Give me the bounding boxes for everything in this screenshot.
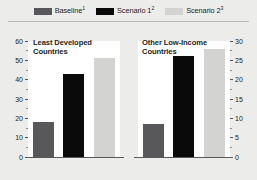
y-tick-label: 10 xyxy=(235,115,243,122)
y-tick-mark xyxy=(230,89,232,90)
y-tick-mark xyxy=(230,157,233,158)
y-tick-label: 30 xyxy=(235,38,243,45)
y-tick-mark xyxy=(230,99,233,100)
legend-item-baseline: Baseline1 xyxy=(34,7,85,14)
bar-ldc-scenario-2 xyxy=(94,58,115,157)
y-tick-mark xyxy=(230,147,232,148)
y-tick-label: 30 xyxy=(15,96,23,103)
chart-legend: Baseline1 Scenario 12 Scenario 23 xyxy=(0,0,257,22)
y-tick-label: 0 xyxy=(235,154,239,161)
y-tick-label: 20 xyxy=(235,76,243,83)
y-tick-label: 60 xyxy=(15,38,23,45)
bar-ldc-baseline xyxy=(33,122,54,157)
legend-divider xyxy=(8,21,249,22)
y-tick-mark xyxy=(230,108,232,109)
y-tick-mark xyxy=(230,118,233,119)
y-tick-label: 15 xyxy=(235,96,243,103)
bar-olic-baseline xyxy=(143,124,164,157)
y-tick-label: 5 xyxy=(235,134,239,141)
panel-other-low-income-countries: Other Low-IncomeCountries 051015202530 xyxy=(130,36,252,164)
bar-olic-scenario-2 xyxy=(204,49,225,157)
y-tick-mark xyxy=(230,137,233,138)
legend-label-baseline: Baseline1 xyxy=(55,7,85,14)
x-axis-line-olic xyxy=(134,157,230,158)
x-axis-line-ldc xyxy=(28,157,124,158)
bar-group-ldc xyxy=(28,41,120,157)
bar-olic-scenario-1 xyxy=(173,56,194,157)
legend-label-scenario-1: Scenario 12 xyxy=(117,7,154,14)
y-tick-label: 40 xyxy=(15,76,23,83)
legend-item-scenario-2: Scenario 23 xyxy=(165,7,223,14)
y-tick-label: 50 xyxy=(15,57,23,64)
legend-swatch-scenario-2 xyxy=(165,8,183,15)
y-tick-mark xyxy=(230,70,232,71)
y-tick-mark xyxy=(230,41,233,42)
legend-item-scenario-1: Scenario 12 xyxy=(96,7,154,14)
bar-group-olic xyxy=(138,41,230,157)
legend-swatch-baseline xyxy=(34,8,52,15)
bar-ldc-scenario-1 xyxy=(63,74,84,157)
y-tick-mark xyxy=(230,50,232,51)
y-tick-label: 20 xyxy=(15,115,23,122)
y-tick-label: 25 xyxy=(235,57,243,64)
legend-swatch-scenario-1 xyxy=(96,8,114,15)
y-tick-mark xyxy=(230,60,233,61)
chart-figure: Baseline1 Scenario 12 Scenario 23 Least … xyxy=(0,0,257,180)
y-tick-mark xyxy=(230,79,233,80)
y-tick-label: 10 xyxy=(15,134,23,141)
panel-least-developed-countries: Least DevelopedCountries 0102030405060 xyxy=(6,36,128,164)
y-tick-label: 0 xyxy=(19,154,23,161)
y-tick-mark xyxy=(230,128,232,129)
y-axis-olic: 051015202530 xyxy=(230,36,254,162)
y-axis-ldc: 0102030405060 xyxy=(6,36,28,162)
legend-label-scenario-2: Scenario 23 xyxy=(186,7,223,14)
